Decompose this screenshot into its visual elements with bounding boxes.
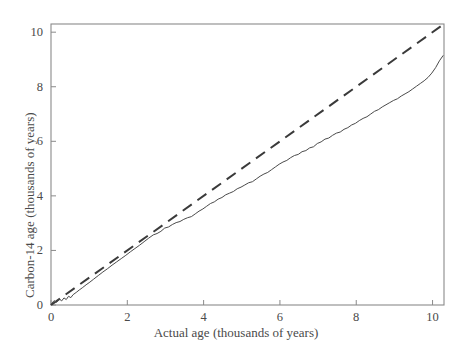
y-axis-tick-label: 0 xyxy=(7,299,43,312)
y-axis-tick-label: 8 xyxy=(7,81,43,94)
y-axis-tick-label: 6 xyxy=(7,135,43,148)
calibration-curve xyxy=(51,55,443,304)
x-axis-tick-label: 4 xyxy=(184,311,224,324)
x-axis-title: Actual age (thousands of years) xyxy=(0,325,472,341)
chart-canvas xyxy=(0,0,472,355)
x-axis-tick-label: 0 xyxy=(31,311,71,324)
x-axis-tick-label: 8 xyxy=(336,311,376,324)
y-axis-tick-label: 10 xyxy=(7,26,43,39)
y-axis-tick-label: 2 xyxy=(7,244,43,257)
x-axis-tick-label: 2 xyxy=(107,311,147,324)
x-axis-tick-label: 10 xyxy=(413,311,453,324)
x-axis-tick-label: 6 xyxy=(260,311,300,324)
y-axis-tick-label: 4 xyxy=(7,190,43,203)
chart-figure: Carbon-14 age (thousands of years) Actua… xyxy=(0,0,472,355)
reference-line xyxy=(51,24,444,305)
